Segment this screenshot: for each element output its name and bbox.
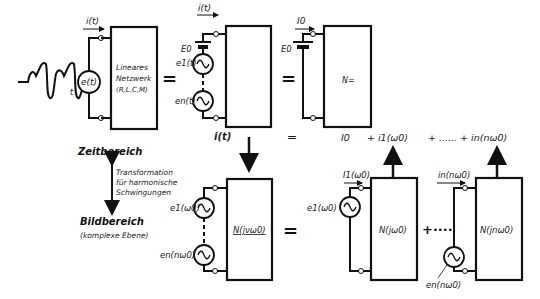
harmonic-1-current-label: I1(ω0) (343, 170, 370, 180)
harmonic-n-network-label: N(jnω0) (480, 225, 513, 235)
plus-dots: +···· (422, 222, 453, 237)
sum-equals: = (287, 130, 297, 144)
dc-source-label-2: E0 (281, 44, 292, 54)
dc-source-label: E0 (181, 44, 192, 54)
transform-line-2: für harmonische (116, 178, 178, 187)
network-line-2: Netzwerk (116, 74, 152, 83)
harmonic-n-source-label: en(nω0) (426, 280, 461, 290)
circuit-diagram: t e(t) i(t) Lineares Netzwerk (R,L,C,M) … (0, 0, 540, 299)
ac-source-n-label: en(t) (175, 96, 196, 106)
network-box-decomposed (226, 26, 271, 127)
transform-line-1: Transformation (116, 168, 173, 177)
equals-sign: = (283, 220, 298, 241)
equals-sign: = (162, 68, 177, 89)
sum-term-I0: I0 (341, 132, 350, 143)
sum-term-i1: + i1(ω0) (367, 132, 408, 143)
network-line-3: (R,L,C,M) (116, 86, 148, 94)
time-domain-label: Zeitbereich (77, 146, 142, 157)
harmonic-1-network-label: N(jω0) (379, 225, 407, 235)
sum-left-it: i(t) (214, 131, 231, 142)
ac-source-1-label: e1(t) (176, 58, 197, 68)
complex-network-label: N(jνω0) (233, 225, 266, 235)
current-label-it-2: i(t) (198, 3, 211, 13)
harmonic-1-source-label: e1(ω0) (307, 203, 337, 213)
phasor-source-n-label: en(nω0) (160, 250, 195, 260)
network-line-1: Lineares (116, 63, 148, 72)
time-axis-label: t (70, 88, 74, 97)
phasor-source-1-label: e1(ω0) (170, 203, 200, 213)
dc-current-label: I0 (297, 16, 306, 26)
wire-top (89, 38, 101, 71)
source-label-et: e(t) (81, 77, 97, 87)
wire-bottom (89, 93, 101, 118)
sum-term-in: + ...... + in(nω0) (428, 132, 507, 143)
transform-line-3: Schwingungen (116, 188, 171, 197)
harmonic-n-current-label: in(nω0) (438, 170, 470, 180)
image-domain-sub: (komplexe Ebene) (80, 231, 149, 240)
equals-sign: = (281, 68, 296, 89)
dc-network-label: N= (342, 76, 355, 85)
image-domain-label: Bildbereich (80, 216, 144, 227)
current-label-it: i(t) (86, 16, 99, 26)
